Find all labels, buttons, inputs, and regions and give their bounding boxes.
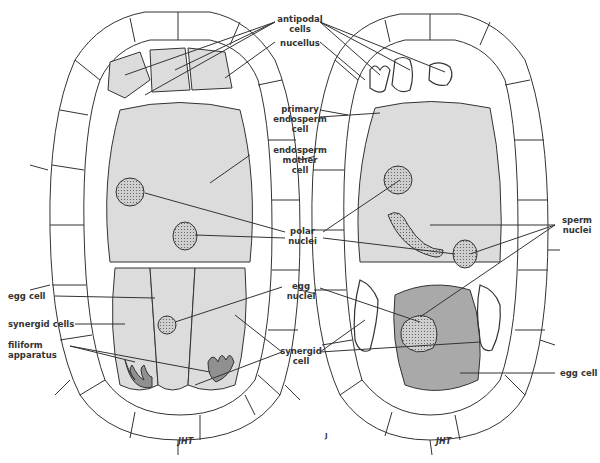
label-sperm-nuclei: sperm nuclei [558,215,596,235]
label-text: cell [270,124,330,134]
label-text: endosperm [270,114,330,124]
polar-nucleus-right [384,166,412,194]
label-egg-nuclei: egg nuclei [280,281,322,301]
label-text: nuclei [280,291,322,301]
label-text: nuclei [280,236,325,246]
label-text: apparatus [8,350,57,360]
label-text: endosperm [270,145,330,155]
label-text: sperm [558,215,596,225]
polar-nucleus [173,222,197,250]
label-synergid-cells: synergid cells [8,319,74,329]
polar-nucleus [116,178,144,206]
artist-signature: JHT [178,437,193,447]
label-text: mother [270,155,330,165]
label-filiform-apparatus: filiform apparatus [8,340,57,360]
label-text: egg [280,281,322,291]
label-text: nuclei [558,225,596,235]
label-synergid-cell: synergid cell [276,346,326,366]
egg-nucleus [158,316,176,334]
label-text: polar [280,226,325,236]
label-text: cell [276,356,326,366]
label-antipodal-cells: antipodal cells [270,14,330,34]
label-egg-cell-left: egg cell [8,291,46,301]
label-nucellus: nucellus [275,38,325,48]
right-ovule [312,14,560,455]
label-text: synergid [276,346,326,356]
primary-endosperm-cell [358,102,501,263]
label-text: cells [270,24,330,34]
label-text: primary [270,104,330,114]
label-text: filiform [8,340,57,350]
label-endosperm-mother-cell: endosperm mother cell [270,145,330,175]
label-text: antipodal [270,14,330,24]
sperm-nucleus [453,240,477,268]
label-text: cell [270,165,330,175]
artist-signature-right: JHT [436,437,451,447]
label-egg-cell-right: egg cell [560,368,598,378]
label-polar-nuclei: polar nuclei [280,226,325,246]
label-primary-endosperm-cell: primary endosperm cell [270,104,330,134]
panel-letter: J [325,431,328,441]
